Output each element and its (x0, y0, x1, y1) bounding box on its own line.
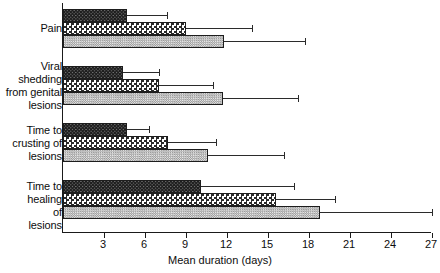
x-axis-tick-label: 6 (141, 238, 147, 250)
x-axis-tick-label: 27 (425, 238, 437, 250)
errorbar-line-pain-series3 (224, 41, 305, 42)
bar-healing-series1 (63, 180, 201, 193)
bar-pain-series2 (63, 22, 186, 35)
errorbar-line-crusting-series2 (168, 142, 216, 143)
x-axis-tick-label: 9 (182, 238, 188, 250)
errorbar-line-viral-series2 (159, 85, 214, 86)
category-label-pain: Pain (40, 22, 62, 35)
errorbar-cap-viral-series2 (213, 82, 214, 89)
errorbar-cap-viral-series1 (159, 69, 160, 76)
errorbar-cap-viral-series3 (298, 95, 299, 102)
bar-crusting-series3 (63, 149, 208, 162)
errorbar-cap-crusting-series1 (149, 126, 150, 133)
errorbar-line-healing-series2 (276, 199, 335, 200)
bar-pain-series3 (63, 35, 224, 48)
errorbar-cap-healing-series3 (432, 209, 433, 216)
errorbar-line-healing-series3 (320, 212, 432, 213)
x-axis-tick-label: 12 (220, 238, 232, 250)
errorbar-cap-pain-series3 (305, 38, 306, 45)
bar-chart: Pain Viral shedding from genital lesions… (0, 0, 440, 273)
errorbar-line-pain-series1 (127, 15, 167, 16)
x-axis-tick-label: 18 (302, 238, 314, 250)
bar-viral-series2 (63, 79, 159, 92)
category-label-crusting: Time to crusting of lesions (12, 124, 62, 163)
errorbar-line-crusting-series1 (127, 129, 149, 130)
bar-pain-series1 (63, 9, 127, 22)
bar-viral-series3 (63, 92, 223, 105)
x-axis-tick-label: 24 (384, 238, 396, 250)
errorbar-line-healing-series1 (201, 186, 294, 187)
bar-crusting-series1 (63, 123, 127, 136)
x-axis-tick-label: 21 (343, 238, 355, 250)
x-axis-tick-label: 15 (261, 238, 273, 250)
errorbar-cap-healing-series2 (335, 196, 336, 203)
errorbar-cap-pain-series2 (252, 25, 253, 32)
category-label-viral-shedding: Viral shedding from genital lesions (6, 60, 62, 112)
plot-area (62, 3, 431, 233)
errorbar-line-pain-series2 (186, 28, 252, 29)
errorbar-line-viral-series3 (223, 98, 298, 99)
bar-crusting-series2 (63, 136, 168, 149)
x-axis-title: Mean duration (days) (0, 254, 440, 266)
errorbar-line-crusting-series3 (208, 155, 285, 156)
errorbar-cap-crusting-series3 (284, 152, 285, 159)
bar-viral-series1 (63, 66, 123, 79)
errorbar-line-viral-series1 (123, 72, 159, 73)
bar-healing-series2 (63, 193, 276, 206)
category-label-healing: Time to healing of lesions (26, 180, 62, 232)
errorbar-cap-crusting-series2 (216, 139, 217, 146)
bar-healing-series3 (63, 206, 320, 219)
errorbar-cap-healing-series1 (294, 183, 295, 190)
x-axis-tick-label: 3 (100, 238, 106, 250)
errorbar-cap-pain-series1 (167, 12, 168, 19)
